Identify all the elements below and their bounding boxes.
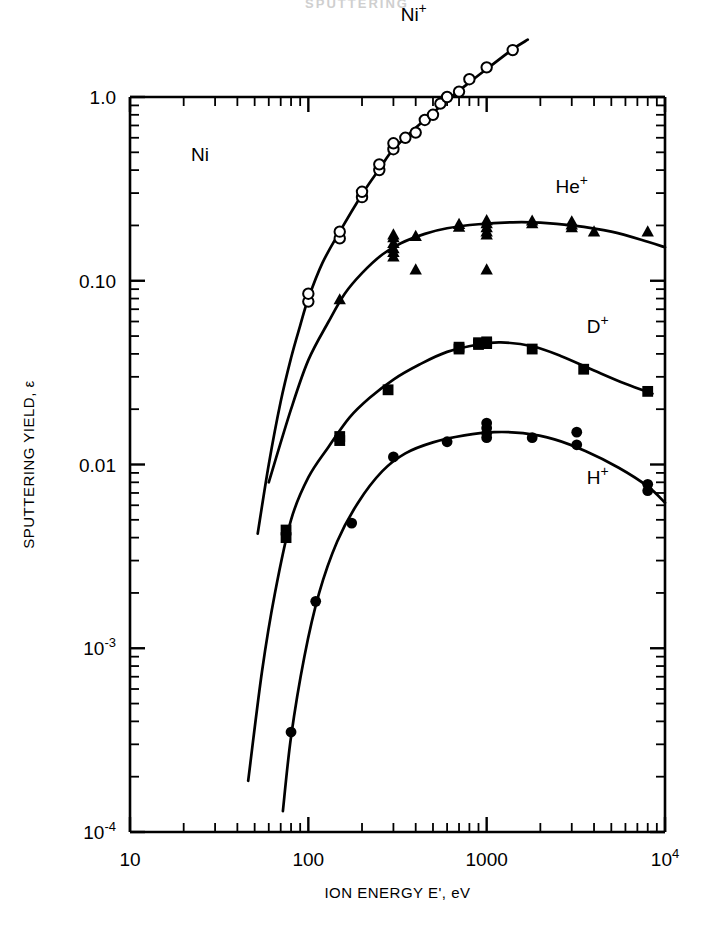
data-point-open-circle <box>464 74 474 84</box>
data-point-filled-triangle <box>387 228 399 239</box>
data-point-open-circle <box>428 110 438 120</box>
data-point-open-circle <box>411 127 421 137</box>
data-point-filled-triangle <box>566 215 578 226</box>
y-tick-label: 1.0 <box>90 87 116 108</box>
data-point-open-circle <box>508 45 518 55</box>
data-point-filled-triangle <box>480 263 492 274</box>
series-D-plus <box>248 336 653 780</box>
series-label-D-plus: D+ <box>587 312 609 337</box>
data-point-filled-circle <box>310 596 321 607</box>
series-curve <box>248 342 652 780</box>
data-point-filled-square <box>481 336 492 347</box>
data-point-open-circle <box>303 289 313 299</box>
data-point-filled-square <box>383 384 394 395</box>
data-point-open-circle <box>454 86 464 96</box>
y-tick-label: 0.01 <box>79 455 116 476</box>
data-point-filled-square <box>578 364 589 375</box>
data-point-filled-square <box>642 386 653 397</box>
data-point-filled-square <box>281 525 292 536</box>
x-tick-label: 1000 <box>466 849 508 870</box>
data-point-open-circle <box>357 187 367 197</box>
axis-frame <box>130 97 665 832</box>
y-tick-label: 0.10 <box>79 271 116 292</box>
data-point-open-circle <box>442 92 452 102</box>
sputtering-yield-figure: SPUTTERING 1010010001041.00.100.0110-310… <box>0 0 714 934</box>
data-point-open-circle <box>374 159 384 169</box>
x-tick-label: 104 <box>651 846 679 870</box>
data-point-filled-square <box>334 431 345 442</box>
data-point-filled-circle <box>286 727 297 738</box>
y-axis-title: SPUTTERING YIELD, ε <box>20 380 37 548</box>
y-tick-label: 10-3 <box>83 635 116 659</box>
data-point-filled-triangle <box>453 218 465 229</box>
data-point-filled-square <box>454 342 465 353</box>
data-point-open-circle <box>335 226 345 236</box>
chart-canvas: 1010010001041.00.100.0110-310-4ION ENERG… <box>0 0 714 934</box>
x-tick-label: 100 <box>292 849 324 870</box>
y-tick-label: 10-4 <box>83 819 116 843</box>
x-tick-label: 10 <box>119 849 140 870</box>
data-point-filled-circle <box>481 418 492 429</box>
target-material-label: Ni <box>191 144 209 165</box>
data-point-filled-circle <box>388 451 399 462</box>
data-point-filled-circle <box>571 427 582 438</box>
data-point-filled-circle <box>442 436 453 447</box>
data-point-open-circle <box>400 133 410 143</box>
series-curve <box>283 432 665 811</box>
series-label-H-plus: H+ <box>587 463 609 488</box>
series-label-He-plus: He+ <box>556 172 588 197</box>
data-point-filled-triangle <box>410 263 422 274</box>
data-point-open-circle <box>481 62 491 72</box>
data-point-filled-square <box>527 344 538 355</box>
data-point-filled-triangle <box>480 214 492 225</box>
data-point-filled-circle <box>346 518 357 529</box>
data-point-filled-triangle <box>642 225 654 236</box>
series-curve <box>269 222 665 482</box>
data-point-filled-circle <box>527 432 538 443</box>
data-point-open-circle <box>388 138 398 148</box>
series-label-Ni-plus: Ni+ <box>401 0 427 25</box>
data-point-filled-triangle <box>526 214 538 225</box>
x-axis-title: ION ENERGY E', eV <box>324 884 470 901</box>
data-point-filled-circle <box>642 485 653 496</box>
data-point-filled-circle <box>571 439 582 450</box>
